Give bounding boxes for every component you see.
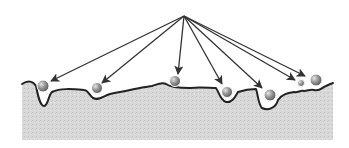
particle-surface-diagram [0,0,349,148]
particle-sphere-5 [264,89,276,101]
arrow-to-particle-4 [184,16,222,84]
ground-fill [22,82,333,140]
particle-sphere-1 [37,80,49,92]
particle-sphere-2 [92,83,103,94]
particle-sphere-6 [298,80,305,87]
particle-sphere-3 [170,76,181,87]
arrow-to-particle-5 [184,16,262,88]
arrow-to-particle-7 [184,16,305,76]
arrow-to-particle-1 [51,16,184,81]
arrow-to-particle-3 [178,16,184,74]
diagram-canvas [0,0,349,148]
arrow-to-particle-6 [184,16,295,80]
particle-sphere-4 [222,87,233,98]
particle-sphere-7 [310,74,322,86]
